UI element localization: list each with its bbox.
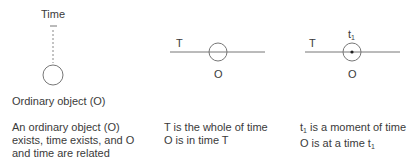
caption-line: T is the whole of time (164, 121, 268, 134)
t1-label: t1 (348, 28, 355, 41)
moment-point (350, 50, 353, 53)
caption-line: An ordinary object (O) (12, 121, 134, 134)
caption-line: exists, time exists, and O (12, 134, 134, 147)
caption-text: is a moment of time (307, 121, 406, 133)
time-label: Time (41, 8, 65, 20)
O-label: O (348, 68, 357, 80)
caption-line: and time are related (12, 147, 134, 160)
T-label: T (176, 37, 183, 49)
object-circle (43, 65, 63, 85)
caption-text: O is at a time t (300, 137, 371, 149)
caption-moment-of-time: t1 is a moment of time O is at a time t1 (300, 121, 406, 153)
caption-whole-of-time: T is the whole of time O is in time T (164, 121, 268, 147)
caption-line: t1 is a moment of time (300, 121, 406, 137)
caption-line: O is in time T (164, 134, 268, 147)
object-label: Ordinary object (O) (12, 95, 106, 107)
t1-sub: 1 (351, 34, 355, 41)
t1-sub: 1 (371, 143, 375, 150)
caption-line: O is at a time t1 (300, 137, 406, 153)
caption-ordinary-object: An ordinary object (O) exists, time exis… (12, 121, 134, 160)
T-label: T (309, 37, 316, 49)
O-label: O (214, 68, 223, 80)
